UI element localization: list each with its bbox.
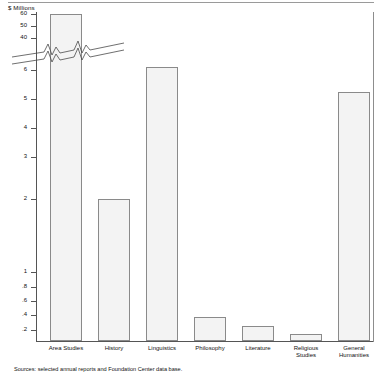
y-tick-mark bbox=[31, 70, 36, 71]
category-label: Literature bbox=[233, 345, 283, 352]
y-tick-label: 1 bbox=[9, 268, 27, 274]
y-tick-label: 3 bbox=[9, 153, 27, 159]
y-tick-mark bbox=[31, 287, 36, 288]
y-tick-label: 4 bbox=[9, 124, 27, 130]
y-tick-mark bbox=[31, 272, 36, 273]
axis-break-squiggle bbox=[12, 38, 124, 66]
y-tick-mark bbox=[31, 14, 36, 15]
y-tick-label: .8 bbox=[9, 283, 27, 289]
y-tick-mark bbox=[31, 301, 36, 302]
x-axis-line bbox=[36, 341, 374, 342]
y-tick-mark bbox=[31, 157, 36, 158]
category-label: Linguistics bbox=[137, 345, 187, 352]
y-tick-mark bbox=[31, 330, 36, 331]
chart-figure: $ Millions 605040654321.8.6.4.2 Area Stu… bbox=[0, 0, 382, 378]
y-tick-label: 60 bbox=[9, 10, 27, 16]
category-label: Philosophy bbox=[185, 345, 235, 352]
y-tick-mark bbox=[31, 199, 36, 200]
y-tick-label: 2 bbox=[9, 195, 27, 201]
y-tick-label: 50 bbox=[9, 22, 27, 28]
y-tick-mark bbox=[31, 315, 36, 316]
y-tick-label: .2 bbox=[9, 326, 27, 332]
source-note: Sources: selected annual reports and Fou… bbox=[14, 366, 182, 372]
category-label: Area Studies bbox=[41, 345, 91, 352]
bar bbox=[98, 199, 130, 341]
y-tick-label: .4 bbox=[9, 311, 27, 317]
category-label: History bbox=[89, 345, 139, 352]
y-tick-label: 6 bbox=[9, 66, 27, 72]
bar bbox=[146, 67, 178, 341]
y-tick-mark bbox=[31, 26, 36, 27]
category-label: Religious Studies bbox=[281, 345, 331, 360]
category-label: General Humanities bbox=[329, 345, 379, 360]
y-tick-label: 5 bbox=[9, 95, 27, 101]
y-tick-label: .6 bbox=[9, 297, 27, 303]
bar bbox=[242, 326, 274, 341]
bar bbox=[290, 334, 322, 341]
y-tick-mark bbox=[31, 128, 36, 129]
y-tick-mark bbox=[31, 99, 36, 100]
plot-right-border bbox=[373, 12, 374, 342]
bar bbox=[338, 92, 370, 341]
top-divider-rule bbox=[8, 2, 374, 3]
bar bbox=[194, 317, 226, 341]
